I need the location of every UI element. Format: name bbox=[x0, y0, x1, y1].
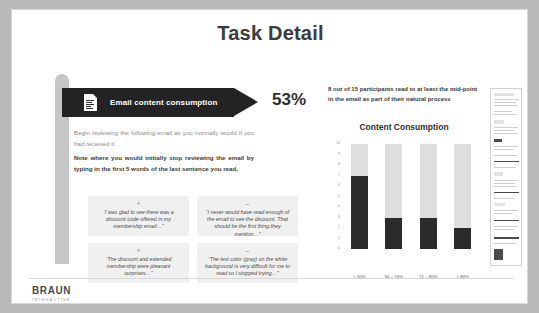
sentiment-icon: – bbox=[203, 200, 292, 207]
chart-bar-value bbox=[454, 228, 471, 249]
banner-label: Email content consumption bbox=[110, 88, 217, 117]
quote-card: + “The discount and extended membership … bbox=[88, 243, 189, 283]
chart-y-tick: 1 bbox=[330, 237, 340, 240]
instruction-paragraph-1: Begin reviewing the following email as y… bbox=[74, 127, 254, 149]
logo-primary-text: BRAUN bbox=[32, 286, 71, 296]
quote-text: “I was glad to see there was a discount … bbox=[94, 209, 183, 231]
chart-y-tick: 7 bbox=[330, 174, 340, 177]
logo-secondary-text: INTERACTIVE bbox=[32, 297, 71, 302]
chart-bar-value bbox=[385, 218, 402, 250]
email-preview-thumbnail[interactable] bbox=[490, 88, 522, 266]
slide-canvas: Task Detail Email content consumption 53… bbox=[11, 9, 528, 304]
chart-y-tick: 4 bbox=[330, 205, 340, 208]
quote-text: “The discount and extended membership we… bbox=[94, 256, 183, 278]
chart-plot-area: 012345678910 < 50%50 – 70%71 – 80%> 80% bbox=[342, 144, 480, 249]
quote-text: “I never would have read enough of the e… bbox=[203, 209, 292, 238]
completion-percentage: 53% bbox=[264, 90, 314, 110]
quote-text: “The text color (gray) on the white back… bbox=[203, 256, 292, 278]
quote-card: – “I never would have read enough of the… bbox=[197, 196, 298, 236]
chart-bar-value bbox=[351, 176, 368, 250]
quote-card: – “The text color (gray) on the white ba… bbox=[197, 243, 298, 283]
chart-y-tick: 8 bbox=[330, 163, 340, 166]
chart-y-tick: 6 bbox=[330, 184, 340, 187]
chart-y-axis: 012345678910 bbox=[330, 144, 340, 249]
sentiment-icon: – bbox=[203, 247, 292, 254]
document-icon bbox=[84, 94, 97, 111]
quote-grid: + “I was glad to see there was a discoun… bbox=[88, 196, 303, 286]
chart-y-tick: 10 bbox=[330, 142, 340, 145]
banner-arrow-head bbox=[234, 88, 258, 116]
quote-card: + “I was glad to see there was a discoun… bbox=[88, 196, 189, 236]
task-banner: Email content consumption bbox=[62, 88, 258, 117]
sentiment-icon: + bbox=[94, 200, 183, 207]
chart-bar-value bbox=[420, 218, 437, 250]
page-title: Task Detail bbox=[12, 22, 528, 45]
chart-title: Content Consumption bbox=[328, 122, 480, 132]
chart-y-tick: 5 bbox=[330, 195, 340, 198]
chart-y-tick: 0 bbox=[330, 247, 340, 250]
instruction-paragraph-2: Note where you would initially stop revi… bbox=[74, 152, 254, 174]
chart-y-tick: 2 bbox=[330, 226, 340, 229]
chart-y-tick: 9 bbox=[330, 153, 340, 156]
chart-y-tick: 3 bbox=[330, 216, 340, 219]
brand-logo: BRAUN INTERACTIVE bbox=[32, 286, 71, 302]
insight-callout: 8 out of 15 participants read to at leas… bbox=[328, 84, 478, 104]
content-consumption-chart: Content Consumption 012345678910 < 50%50… bbox=[328, 122, 480, 272]
sentiment-icon: + bbox=[94, 247, 183, 254]
footer-divider bbox=[28, 278, 513, 279]
